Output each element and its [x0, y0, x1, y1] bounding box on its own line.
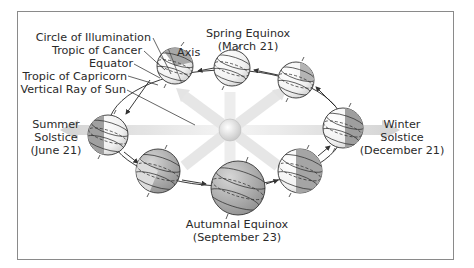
label-circle-of-illumination: Circle of Illumination: [36, 31, 151, 44]
label-summer-date: (June 21): [31, 144, 82, 157]
sun: [219, 119, 241, 141]
label-vertical-ray-of-sun: Vertical Ray of Sun: [20, 83, 126, 96]
label-tropic-of-capricorn: Tropic of Capricorn: [21, 70, 127, 83]
label-spring-date: (March 21): [218, 40, 279, 53]
label-winter-solstice: Solstice: [380, 131, 424, 144]
label-axis: Axis: [177, 46, 200, 59]
label-autumnal-equinox: Autumnal Equinox: [186, 218, 289, 231]
label-equator: Equator: [89, 57, 133, 70]
label-summer: Summer: [32, 118, 80, 131]
label-summer-solstice: Solstice: [34, 131, 78, 144]
label-spring-equinox: Spring Equinox: [206, 27, 291, 40]
label-winter-date: (December 21): [360, 144, 445, 157]
earth-orbit-seasons-diagram: Circle of Illumination Tropic of Cancer …: [0, 0, 474, 268]
label-winter: Winter: [384, 118, 421, 131]
label-tropic-of-cancer: Tropic of Cancer: [51, 44, 142, 57]
label-autumnal-date: (September 23): [193, 231, 281, 244]
